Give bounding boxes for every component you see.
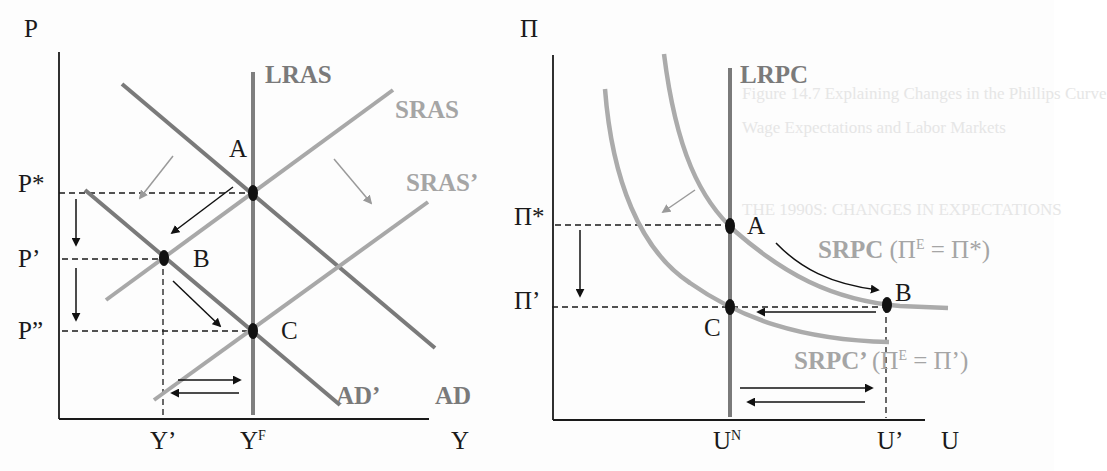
ad-prime-label: AD’ xyxy=(336,383,380,408)
sras-prime-line xyxy=(154,202,428,400)
srpc-prime-expectation-sup: E xyxy=(898,348,907,363)
sras-label: SRAS xyxy=(395,97,459,122)
srpc-expectation-close: = Π*) xyxy=(925,236,990,263)
point-b-dot xyxy=(159,250,169,266)
y-full-employment-tick-label: YF xyxy=(240,428,266,453)
ad-shift-arrow xyxy=(140,156,173,198)
lras-label: LRAS xyxy=(265,62,332,87)
point-a-dot-phillips xyxy=(725,218,735,234)
srpc-prime-expectation-close: = Π’) xyxy=(907,347,968,374)
p-prime-tick-label: P’ xyxy=(18,246,40,271)
u-prime-tick-label: U’ xyxy=(877,428,903,453)
srpc-label: SRPC (ΠE = Π*) xyxy=(818,237,990,262)
natural-unemployment-tick-label: UN xyxy=(713,428,741,453)
b-to-c-arrow xyxy=(173,281,220,326)
ad-label: AD xyxy=(435,383,471,408)
inflation-axis-label: Π xyxy=(520,16,538,41)
p-star-tick-label: P* xyxy=(18,171,44,196)
point-a-dot xyxy=(248,185,258,201)
price-axis-label: P xyxy=(24,16,38,41)
srpc-curve xyxy=(664,54,948,308)
sras-shift-arrow xyxy=(334,159,371,203)
lrpc-label: LRPC xyxy=(740,62,808,87)
pi-prime-tick-label: Π’ xyxy=(514,288,540,313)
point-b-label: B xyxy=(193,246,210,271)
srpc-prime-name: SRPC’ xyxy=(794,347,866,374)
unemployment-axis-label: U xyxy=(941,428,959,453)
point-a-label-phillips: A xyxy=(747,213,765,238)
srpc-expectation-sup: E xyxy=(916,237,925,252)
point-c-label-phillips: C xyxy=(704,315,721,340)
y-f-superscript: F xyxy=(258,428,266,443)
srpc-name: SRPC xyxy=(818,236,883,263)
output-axis-label: Y xyxy=(451,428,469,453)
point-c-dot xyxy=(248,323,258,339)
point-b-label-phillips: B xyxy=(895,280,912,305)
ad-as-panel xyxy=(59,52,435,419)
point-c-dot-phillips xyxy=(725,299,735,315)
pi-star-tick-label: Π* xyxy=(514,204,545,229)
point-b-dot-phillips xyxy=(882,297,892,313)
y-f-base: Y xyxy=(240,427,258,454)
srpc-prime-expectation-open: (Π xyxy=(872,347,898,374)
a-to-b-arrow xyxy=(172,187,233,233)
p-double-prime-tick-label: P” xyxy=(18,318,43,343)
u-n-superscript: N xyxy=(731,428,741,443)
y-prime-tick-label: Y’ xyxy=(150,428,176,453)
srpc-prime-label: SRPC’ (ΠE = Π’) xyxy=(794,348,968,373)
point-c-label: C xyxy=(281,318,298,343)
point-a-label: A xyxy=(229,136,247,161)
sras-prime-label: SRAS’ xyxy=(406,170,478,195)
srpc-expectation-open: (Π xyxy=(890,236,916,263)
u-n-base: U xyxy=(713,427,731,454)
srpc-shift-arrow xyxy=(663,190,695,212)
